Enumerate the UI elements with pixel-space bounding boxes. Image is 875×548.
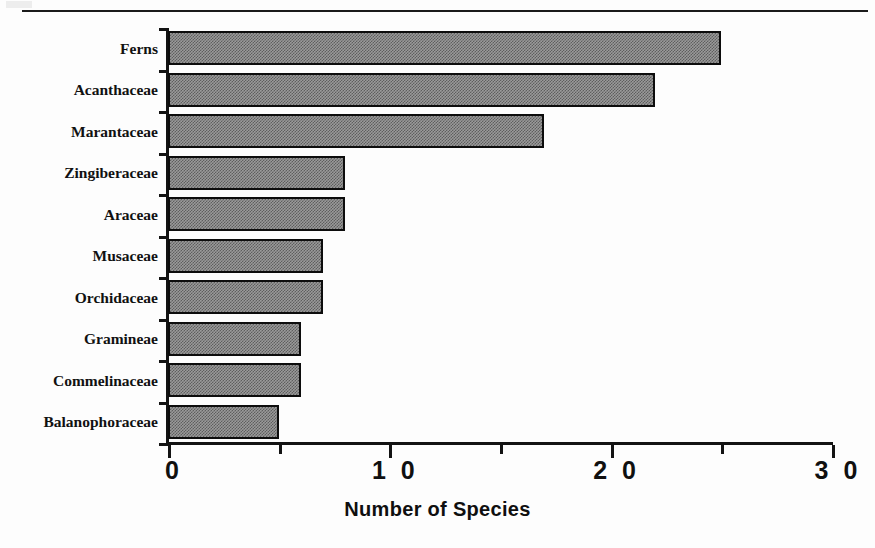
bar-band <box>168 236 832 278</box>
category-label-text: Balanophoraceae <box>43 413 158 431</box>
category-axis-labels: FernsAcanthaceaeMarantaceaeZingiberaceae… <box>0 28 158 443</box>
category-label-marantaceae: Marantaceae <box>0 111 158 153</box>
value-tick-label: 2 0 <box>593 456 640 485</box>
category-tick <box>159 319 169 322</box>
value-tick-minor <box>721 445 724 454</box>
category-label-orchidaceae: Orchidaceae <box>0 277 158 319</box>
category-label-ferns: Ferns <box>0 28 158 70</box>
category-label-text: Marantaceae <box>71 123 158 141</box>
bar-band <box>168 153 832 195</box>
value-tick-minor <box>279 445 282 454</box>
bar-band <box>168 70 832 112</box>
value-tick-label: 0 <box>165 456 183 485</box>
bar <box>168 405 279 439</box>
bar <box>168 156 345 190</box>
bar <box>168 322 301 356</box>
value-tick-label: 3 0 <box>815 456 862 485</box>
bar-band <box>168 360 832 402</box>
bar <box>168 31 721 65</box>
bar-band <box>168 111 832 153</box>
category-label-gramineae: Gramineae <box>0 319 158 361</box>
category-label-text: Araceae <box>104 206 158 224</box>
category-label-text: Gramineae <box>84 330 158 348</box>
category-tick <box>159 70 169 73</box>
bar-band <box>168 28 832 70</box>
bar <box>168 239 323 273</box>
page-scan-artifact <box>6 1 32 8</box>
bar <box>168 363 301 397</box>
category-label-text: Ferns <box>120 40 158 58</box>
category-tick <box>159 153 169 156</box>
bar <box>168 197 345 231</box>
category-label-araceae: Araceae <box>0 194 158 236</box>
category-tick <box>159 236 169 239</box>
category-label-balanophoraceae: Balanophoraceae <box>0 402 158 444</box>
category-tick <box>159 28 169 31</box>
top-horizontal-rule <box>22 10 868 12</box>
category-label-commelinaceae: Commelinaceae <box>0 360 158 402</box>
category-label-text: Zingiberaceae <box>64 164 158 182</box>
category-label-musaceae: Musaceae <box>0 236 158 278</box>
category-tick <box>159 194 169 197</box>
bar <box>168 114 544 148</box>
category-label-text: Acanthaceae <box>74 81 158 99</box>
value-tick-minor <box>500 445 503 454</box>
value-tick-label: 1 0 <box>372 456 419 485</box>
category-label-text: Orchidaceae <box>75 289 158 307</box>
figure-canvas: FernsAcanthaceaeMarantaceaeZingiberaceae… <box>0 0 875 548</box>
bar-band <box>168 402 832 444</box>
category-tick <box>159 111 169 114</box>
bar-band <box>168 319 832 361</box>
x-axis-title: Number of Species <box>0 498 875 521</box>
bar-band <box>168 277 832 319</box>
category-tick <box>159 277 169 280</box>
category-tick <box>159 360 169 363</box>
category-label-text: Commelinaceae <box>53 372 158 390</box>
category-tick <box>159 402 169 405</box>
bar <box>168 280 323 314</box>
bar-band <box>168 194 832 236</box>
bar <box>168 73 655 107</box>
category-label-text: Musaceae <box>93 247 158 265</box>
plot-area <box>168 28 832 443</box>
category-label-zingiberaceae: Zingiberaceae <box>0 153 158 195</box>
category-label-acanthaceae: Acanthaceae <box>0 70 158 112</box>
